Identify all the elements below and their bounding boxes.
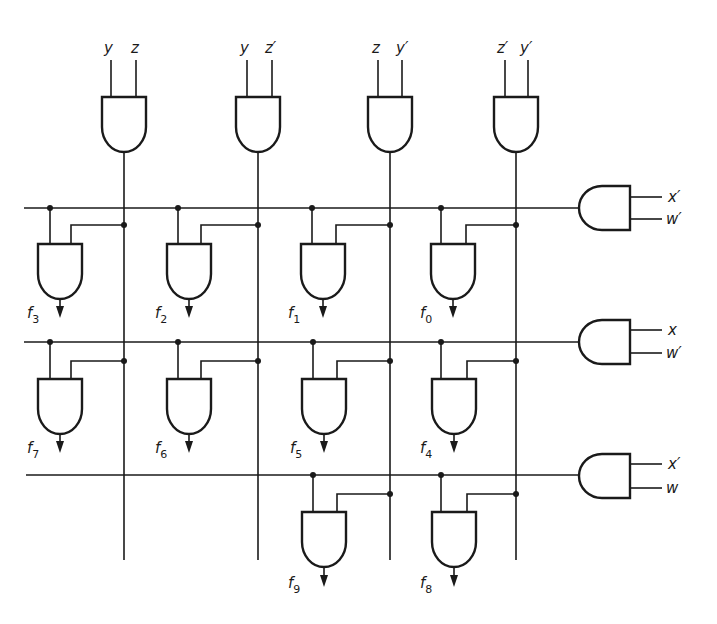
decoder-diagram: y z y z′ z y′ z′ y′ x′ w′ — [0, 0, 717, 624]
output-gate-f0: f0 — [420, 205, 519, 326]
input-label-z-prime: z′ — [496, 39, 509, 57]
input-label-z: z — [371, 39, 381, 57]
output-label-f6: f6 — [155, 439, 167, 461]
output-gate-f1: f1 — [288, 205, 393, 326]
input-label-w-prime: w′ — [666, 210, 682, 228]
row-1: x w′ f7 f6 — [24, 320, 682, 461]
output-gate-f5: f5 — [290, 339, 393, 461]
output-gate-f6: f6 — [155, 339, 261, 461]
input-label-x: x — [667, 321, 677, 339]
output-label-f7: f7 — [27, 439, 39, 461]
output-label-f4: f4 — [420, 439, 432, 461]
output-gate-f4: f4 — [420, 339, 519, 461]
row-0: x′ w′ f3 f2 — [24, 186, 682, 326]
input-label-w-prime: w′ — [666, 344, 682, 362]
column-gate-yz: y z — [102, 39, 146, 560]
row-gate-x-prime-w-prime: x′ w′ — [579, 186, 682, 230]
input-label-y-prime: y′ — [395, 39, 409, 57]
column-gate-yz-prime: y z′ — [236, 39, 280, 560]
input-label-w: w — [666, 479, 679, 497]
output-gate-f8: f8 — [420, 472, 519, 596]
output-label-f9: f9 — [288, 574, 300, 596]
output-label-f2: f2 — [155, 304, 167, 326]
input-label-x-prime: x′ — [667, 188, 681, 206]
output-label-f3: f3 — [27, 304, 39, 326]
column-gate-zy-prime: z y′ — [368, 39, 412, 560]
output-label-f5: f5 — [290, 439, 302, 461]
input-label-z-prime: z′ — [264, 39, 277, 57]
output-label-f1: f1 — [288, 304, 300, 326]
row-gate-x-w-prime: x w′ — [579, 320, 682, 364]
input-label-y: y — [239, 39, 250, 57]
output-gate-f3: f3 — [27, 205, 127, 326]
row-gate-x-prime-w: x′ w — [579, 454, 681, 498]
input-label-x-prime: x′ — [667, 455, 681, 473]
output-label-f0: f0 — [420, 304, 432, 326]
input-label-z: z — [130, 39, 140, 57]
output-gate-f2: f2 — [155, 205, 261, 326]
column-gate-z-prime-y-prime: z′ y′ — [494, 39, 538, 560]
output-gate-f9: f9 — [288, 472, 393, 596]
input-label-y-prime: y′ — [519, 39, 533, 57]
input-label-y: y — [103, 39, 114, 57]
output-label-f8: f8 — [420, 574, 432, 596]
output-gate-f7: f7 — [27, 339, 127, 461]
